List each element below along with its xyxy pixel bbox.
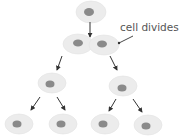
arrow-gen2-right-to-d bbox=[133, 99, 142, 112]
cell-nucleus bbox=[99, 121, 108, 128]
dividing-cell-left bbox=[63, 34, 93, 54]
label-pointer-line bbox=[119, 36, 133, 43]
cell-nucleus bbox=[13, 121, 22, 128]
arrow-gen2-left-to-b bbox=[57, 97, 65, 110]
gen2-cell-right bbox=[109, 76, 137, 96]
arrow-gen2-right-to-c bbox=[109, 99, 116, 111]
cell-nucleus bbox=[84, 8, 94, 16]
arrow-division-to-left bbox=[57, 56, 62, 70]
gen2-cell-left bbox=[38, 73, 66, 93]
cell-divides-label: cell divides bbox=[120, 21, 179, 33]
gen3-cell-4 bbox=[134, 115, 162, 135]
cell-nucleus bbox=[73, 40, 83, 47]
parent-cell bbox=[76, 1, 106, 23]
cell-nucleus bbox=[142, 123, 151, 130]
label-pointer-dot bbox=[118, 42, 120, 44]
arrow-gen2-left-to-a bbox=[31, 97, 40, 110]
cell-nucleus bbox=[118, 85, 127, 92]
gen3-cell-2 bbox=[49, 114, 77, 134]
dividing-cell-right bbox=[89, 35, 119, 55]
cell-nucleus bbox=[57, 121, 66, 128]
cell-division-diagram: cell divides bbox=[0, 0, 184, 138]
arrow-division-to-right bbox=[110, 56, 117, 70]
gen3-cell-1 bbox=[5, 114, 33, 134]
cell-nucleus bbox=[46, 81, 55, 88]
cell-nucleus bbox=[97, 41, 107, 48]
gen3-cell-3 bbox=[91, 114, 119, 134]
